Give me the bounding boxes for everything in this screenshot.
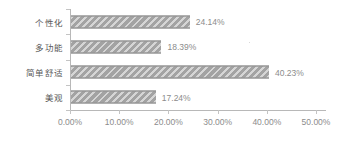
x-axis-tick-label: 10.00%	[105, 117, 134, 127]
x-axis-tick	[316, 110, 317, 114]
x-axis-tick	[119, 110, 120, 114]
bar-row: 美观 17.24%	[0, 85, 352, 110]
bar[interactable]	[71, 66, 269, 79]
x-axis-tick-label: 30.00%	[203, 117, 232, 127]
bar-row: 简单舒适 40.23%	[0, 60, 352, 85]
category-label: 多功能	[0, 41, 63, 53]
bar[interactable]	[71, 15, 190, 28]
bar-row: 多功能 18.39%	[0, 34, 352, 59]
y-axis-tick	[66, 60, 70, 61]
x-axis-tick	[70, 110, 71, 114]
bar-container: 40.23%	[71, 66, 269, 79]
x-axis-tick-label: 40.00%	[252, 117, 281, 127]
x-axis-tick-label: 0.00%	[58, 117, 82, 127]
bar-row: 个性化 24.14%	[0, 9, 352, 34]
category-label: 简单舒适	[0, 66, 63, 78]
bar-value-label: 17.24%	[162, 92, 191, 102]
x-axis-tick	[168, 110, 169, 114]
bar[interactable]	[71, 40, 161, 53]
y-axis-tick	[66, 85, 70, 86]
y-axis-tick	[66, 34, 70, 35]
x-axis-ticks: 0.00%10.00%20.00%30.00%40.00%50.00%	[0, 110, 352, 140]
x-axis-tick	[218, 110, 219, 114]
category-label: 美观	[0, 91, 63, 103]
bar-rows: 个性化 24.14% 多功能 18.39% 简单舒适 40.23%	[0, 9, 352, 110]
bar-container: 18.39%	[71, 40, 161, 53]
bar-chart: 个性化 24.14% 多功能 18.39% 简单舒适 40.23%	[0, 0, 352, 144]
category-label: 个性化	[0, 16, 63, 28]
bar-value-label: 18.39%	[167, 42, 196, 52]
y-axis-tick	[66, 9, 70, 10]
x-axis-tick	[267, 110, 268, 114]
bar-value-label: 40.23%	[275, 67, 304, 77]
bar-container: 17.24%	[71, 91, 156, 104]
bar-value-label: 24.14%	[196, 17, 225, 27]
x-axis-tick-label: 20.00%	[154, 117, 183, 127]
x-axis-tick-label: 50.00%	[302, 117, 331, 127]
bar-container: 24.14%	[71, 15, 190, 28]
bar[interactable]	[71, 91, 156, 104]
